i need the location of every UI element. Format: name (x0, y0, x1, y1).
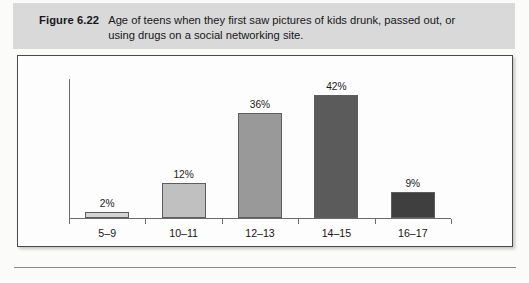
bar-value-label: 2% (100, 198, 115, 209)
page-bottom-rule (14, 267, 516, 268)
bar[interactable] (85, 212, 129, 218)
bar-value-label: 42% (326, 81, 346, 92)
figure-caption-text: Age of teens when they first saw picture… (108, 13, 483, 42)
x-axis-tick (451, 219, 452, 224)
figure-number-label: Figure 6.22 (39, 13, 99, 28)
x-axis-category-label: 10–11 (169, 227, 198, 239)
chart-frame: 2%12%36%42%9% 5–910–1112–1314–1516–17 (17, 55, 513, 247)
bar-chart-plot: 2%12%36%42%9% 5–910–1112–1314–1516–17 (18, 56, 512, 246)
x-axis-category-label: 14–15 (322, 227, 351, 239)
bar[interactable] (391, 192, 435, 218)
x-axis-category-label: 5–9 (98, 227, 116, 239)
figure-caption: Figure 6.22 Age of teens when they first… (39, 13, 497, 42)
bar-group: 42% (298, 56, 374, 219)
bar[interactable] (314, 95, 358, 218)
x-axis-category-label: 16–17 (398, 227, 427, 239)
x-axis-category-label: 12–13 (245, 227, 274, 239)
bar[interactable] (238, 113, 282, 218)
bar-group: 36% (222, 56, 298, 219)
bar-value-label: 9% (405, 178, 420, 189)
x-axis-tick (375, 219, 376, 224)
x-axis-tick (145, 219, 146, 224)
figure-caption-band: Figure 6.22 Age of teens when they first… (13, 3, 515, 49)
x-axis-tick (222, 219, 223, 224)
bar[interactable] (162, 183, 206, 218)
bar-group: 9% (375, 56, 451, 219)
x-axis-tick (298, 219, 299, 224)
bar-group: 2% (69, 56, 145, 219)
bar-group: 12% (145, 56, 221, 219)
bar-value-label: 12% (173, 169, 193, 180)
bar-value-label: 36% (250, 99, 270, 110)
x-axis-tick (69, 219, 70, 224)
bars-layer: 2%12%36%42%9% (69, 56, 451, 219)
